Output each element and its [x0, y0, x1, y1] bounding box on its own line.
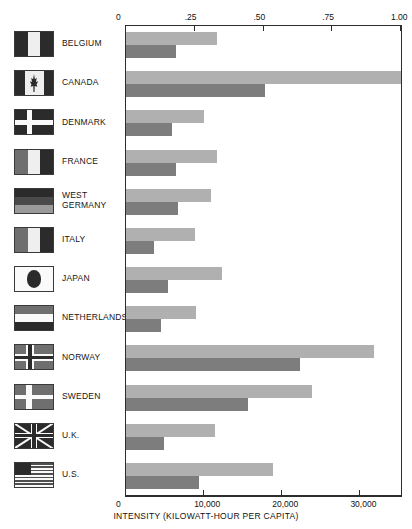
plot-area	[125, 25, 402, 497]
bar-share	[126, 267, 222, 280]
country-row: ITALY	[0, 221, 120, 259]
axis-tick-label: 0	[116, 12, 121, 22]
country-label: U.K.	[62, 431, 79, 441]
country-row: NETHERLANDS	[0, 299, 120, 337]
flag-band	[15, 150, 28, 174]
bar-share	[126, 71, 401, 84]
top-axis: 0.25.50.751.00	[125, 25, 401, 26]
country-label: CANADA	[62, 78, 99, 88]
flag-band	[15, 314, 53, 322]
country-label: BELGIUM	[62, 39, 102, 49]
bar-intensity	[126, 84, 265, 97]
flag-stripe	[15, 477, 53, 479]
france-flag	[14, 149, 54, 175]
country-row: U.S.	[0, 456, 120, 494]
bar-share	[126, 385, 312, 398]
country-label: NORWAY	[62, 353, 100, 363]
chart-figure: BELGIUM CANADA DENMARK FRANCE WEST GERMA…	[0, 0, 412, 529]
flag-band	[15, 189, 53, 197]
country-row: CANADA	[0, 64, 120, 102]
flag-cross	[15, 395, 53, 399]
bottom-axis-line	[125, 495, 401, 496]
west-germany-flag	[14, 188, 54, 214]
bar-share	[126, 110, 204, 123]
norway-flag	[14, 344, 54, 370]
bar-intensity	[126, 123, 172, 136]
axis-tick	[400, 26, 401, 31]
bar-share	[126, 150, 217, 163]
flag-band	[40, 228, 53, 252]
country-row: SWEDEN	[0, 378, 120, 416]
bar-share	[126, 32, 217, 45]
bar-intensity	[126, 358, 300, 371]
bar-intensity	[126, 202, 178, 215]
canada-flag	[14, 70, 54, 96]
country-label: NETHERLANDS	[62, 313, 128, 323]
bottom-axis: 010,00020,00030,000	[125, 495, 401, 496]
axis-tick-label: .75	[322, 12, 334, 22]
country-row: WEST GERMANY	[0, 182, 120, 220]
flag-band	[15, 205, 53, 213]
flag-band	[28, 228, 41, 252]
axis-tick-label: 0	[116, 499, 121, 509]
flag-band	[44, 71, 54, 95]
bar-intensity	[126, 241, 154, 254]
flag-band	[15, 228, 28, 252]
flag-cross	[15, 356, 53, 359]
bar-intensity	[126, 163, 176, 176]
bar-intensity	[126, 45, 176, 58]
axis-tick-label: 30,000	[350, 499, 376, 509]
country-row: DENMARK	[0, 103, 120, 141]
country-row: BELGIUM	[0, 25, 120, 63]
bar-share	[126, 306, 196, 319]
axis-tick-label: 10,000	[194, 499, 220, 509]
bar-intensity	[126, 476, 199, 489]
flag-canton	[15, 463, 31, 475]
country-row: JAPAN	[0, 260, 120, 298]
netherlands-flag	[14, 305, 54, 331]
flag-band	[40, 150, 53, 174]
uk-flag	[14, 423, 54, 449]
flag-band	[15, 306, 53, 314]
flag-stripe	[15, 483, 53, 485]
bar-intensity	[126, 319, 161, 332]
country-row: FRANCE	[0, 143, 120, 181]
japan-flag	[14, 266, 54, 292]
flag-stripe	[15, 480, 53, 482]
italy-flag	[14, 227, 54, 253]
axis-tick-label: 1.00	[391, 12, 408, 22]
bar-intensity	[126, 280, 168, 293]
country-label: SWEDEN	[62, 392, 101, 402]
flag-band	[28, 32, 41, 56]
axis-tick	[263, 26, 264, 31]
axis-tick	[331, 26, 332, 31]
bar-share	[126, 189, 211, 202]
flag-band	[15, 71, 25, 95]
bar-share	[126, 228, 195, 241]
country-label: ITALY	[62, 235, 85, 245]
flag-band	[15, 322, 53, 330]
country-row: NORWAY	[0, 338, 120, 376]
axis-tick	[281, 490, 282, 495]
flag-band	[40, 32, 53, 56]
country-label: DENMARK	[62, 118, 106, 128]
axis-tick-label: 20,000	[272, 499, 298, 509]
country-label: U.S.	[62, 470, 79, 480]
country-row: U.K.	[0, 417, 120, 455]
belgium-flag	[14, 31, 54, 57]
x-axis-title: INTENSITY (KILOWATT-HOUR PER CAPITA)	[0, 511, 412, 521]
country-label: WEST GERMANY	[62, 191, 106, 210]
sun-disc-icon	[27, 270, 41, 287]
bar-intensity	[126, 398, 248, 411]
bar-intensity	[126, 437, 164, 450]
flag-cross	[15, 120, 53, 124]
flag-band	[15, 197, 53, 205]
sweden-flag	[14, 384, 54, 410]
axis-tick	[203, 490, 204, 495]
country-label: JAPAN	[62, 274, 90, 284]
axis-tick-label: .50	[254, 12, 266, 22]
axis-tick	[359, 490, 360, 495]
flag-band	[28, 150, 41, 174]
us-flag	[14, 462, 54, 488]
flag-cross	[15, 434, 53, 436]
